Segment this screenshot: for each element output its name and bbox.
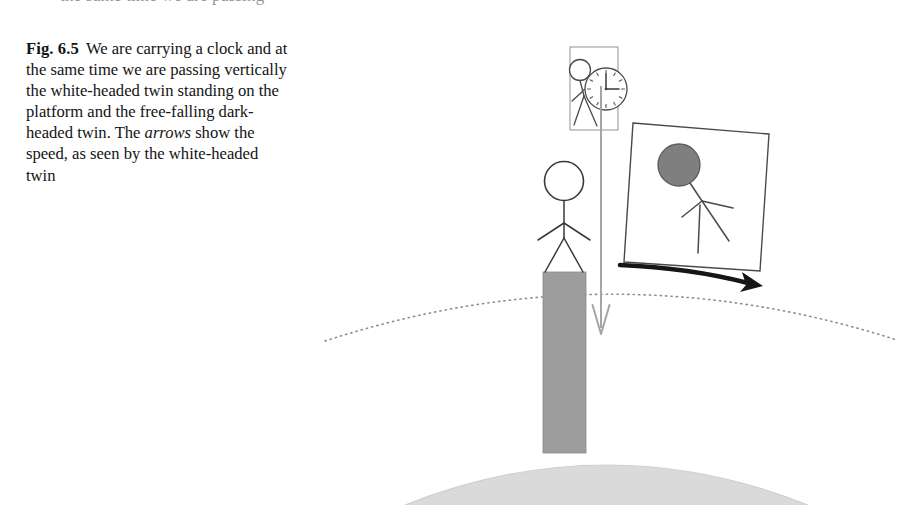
observer-head-icon	[570, 60, 591, 81]
platform-column	[543, 272, 586, 453]
dark-head-icon	[658, 144, 700, 186]
page-canvas: the same time we are passing Fig. 6.5We …	[0, 0, 907, 505]
dotted-horizon-arc	[325, 294, 897, 341]
clock-face	[585, 68, 627, 110]
earth-surface-arc	[405, 465, 808, 505]
white-head-icon	[545, 162, 584, 201]
white-headed-twin	[538, 162, 590, 273]
figure-illustration	[0, 0, 907, 505]
free-falling-frame-box	[624, 123, 769, 271]
